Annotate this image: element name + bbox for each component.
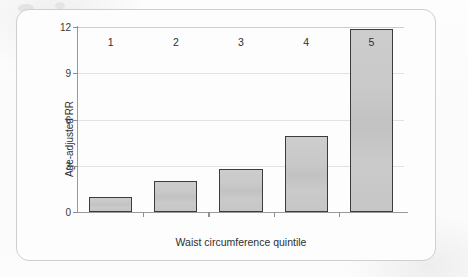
y-tick-mark — [73, 120, 78, 121]
bar — [219, 169, 262, 212]
bar — [350, 29, 393, 212]
bar — [285, 136, 328, 212]
y-tick-label: 12 — [60, 22, 71, 33]
x-tick-mark — [143, 212, 144, 217]
x-tick-label: 4 — [303, 36, 309, 48]
y-tick-mark — [73, 212, 78, 213]
x-tick-label: 1 — [108, 36, 114, 48]
y-tick-label: 3 — [65, 160, 71, 171]
x-tick-label: 3 — [238, 36, 244, 48]
bar — [154, 181, 197, 212]
y-tick-label: 0 — [65, 207, 71, 218]
bar — [89, 197, 132, 212]
x-axis-title: Waist circumference quintile — [78, 236, 404, 248]
x-axis-line — [78, 212, 408, 213]
x-tick-mark — [208, 212, 209, 217]
y-tick-mark — [73, 73, 78, 74]
x-tick-label: 5 — [368, 36, 374, 48]
x-tick-mark — [274, 212, 275, 217]
y-tick-mark — [73, 27, 78, 28]
x-tick-label: 2 — [173, 36, 179, 48]
scan-artifact — [55, 2, 65, 9]
plot-area: 03691212345 — [78, 27, 404, 212]
y-tick-mark — [73, 166, 78, 167]
x-tick-mark — [339, 212, 340, 217]
scanned-page-background: Age-adjusted RR 03691212345 Waist circum… — [0, 0, 468, 277]
y-tick-label: 6 — [65, 114, 71, 125]
y-tick-label: 9 — [65, 68, 71, 79]
